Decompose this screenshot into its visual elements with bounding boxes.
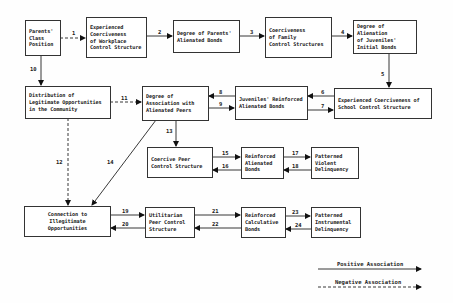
edge-label-12: 12 <box>56 159 63 165</box>
node-parents-class-position: Parents' Class Position <box>25 20 61 56</box>
edge-label-2: 2 <box>158 29 161 35</box>
legend-positive-label: Positive Association <box>337 261 403 267</box>
edge-label-3: 3 <box>250 29 253 35</box>
edge-label-9: 9 <box>219 101 222 107</box>
edge-label-6: 6 <box>321 89 324 95</box>
edge-label-20: 20 <box>122 221 129 227</box>
node-family-coerciveness: Coerciveness of Family Control Structure… <box>265 17 332 58</box>
edge-label-13: 13 <box>166 128 173 134</box>
causal-diagram: Parents' Class Position Experienced Coer… <box>0 0 453 303</box>
edge-label-21: 21 <box>212 208 219 214</box>
edge-label-1: 1 <box>72 30 75 36</box>
edge-label-23: 23 <box>292 209 299 215</box>
node-school-coerciveness: Experienced Coerciveness of School Contr… <box>334 88 432 119</box>
node-patterned-violent-delinquency: Patterned Violent Delinquency <box>311 147 359 179</box>
edge-label-8: 8 <box>219 89 222 95</box>
edge-label-24: 24 <box>295 222 302 228</box>
edge-label-15: 15 <box>222 150 229 156</box>
node-juveniles-reinforced-bonds: Juveniles' Reinforced Alienated Bonds <box>235 86 308 120</box>
edge-label-7: 7 <box>321 103 324 109</box>
node-legitimate-opportunities: Distribution of Legitimate Opportunities… <box>25 86 111 119</box>
node-association-alienated-peers: Degree of Association with Alienated Pee… <box>142 86 209 121</box>
edge-label-22: 22 <box>212 221 219 227</box>
edge-label-19: 19 <box>122 208 129 214</box>
node-coercive-peer-control: Coercive Peer Control Structure <box>147 147 213 178</box>
node-reinforced-alienated-bonds: Reinforced Alienated Bonds <box>241 147 284 179</box>
edge-label-11: 11 <box>121 95 128 101</box>
legend-negative-label: Negative Association <box>335 279 401 285</box>
edge-label-17: 17 <box>292 150 299 156</box>
edge-label-10: 10 <box>30 66 37 72</box>
edge-label-16: 16 <box>222 163 229 169</box>
edge-label-14: 14 <box>107 159 114 165</box>
node-reinforced-calculative-bonds: Reinforced Calculative Bonds <box>241 207 286 238</box>
node-illegitimate-opportunities: Connection to Illegitimate Opportunities <box>24 206 111 237</box>
node-juveniles-initial-bonds: Degree of Alienation of Juveniles' Initi… <box>353 20 417 54</box>
edge-label-4: 4 <box>341 29 344 35</box>
edge-label-5: 5 <box>381 71 384 77</box>
node-workplace-coerciveness: Experienced Coerciveness of Workplace Co… <box>86 17 147 58</box>
node-utilitarian-peer-control: Utilitarian Peer Control Structure <box>145 207 195 238</box>
node-parents-alienated-bonds: Degree of Parents' Alienated Bonds <box>173 20 240 53</box>
node-patterned-instrumental-delinquency: Patterned Instrumental Delinquency <box>311 207 361 238</box>
edge-label-18: 18 <box>292 163 299 169</box>
